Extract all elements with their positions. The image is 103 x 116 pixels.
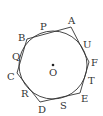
tangent-label-q: Q bbox=[12, 51, 20, 62]
geometry-figure: ABCDEFPQRSTUO bbox=[0, 0, 103, 116]
tangent-label-p: P bbox=[40, 21, 47, 32]
vertex-label-b: B bbox=[18, 32, 25, 43]
vertex-label-e: E bbox=[81, 93, 88, 104]
vertex-label-d: D bbox=[38, 104, 46, 115]
hexagon-circle-diagram: ABCDEFPQRSTUO bbox=[0, 0, 103, 116]
tangent-label-u: U bbox=[83, 39, 91, 50]
tangent-label-s: S bbox=[60, 100, 67, 111]
vertex-label-c: C bbox=[7, 71, 15, 82]
tangent-label-t: T bbox=[88, 75, 95, 86]
center-label-o: O bbox=[49, 67, 57, 78]
tangent-label-r: R bbox=[21, 88, 29, 99]
vertex-label-a: A bbox=[67, 15, 76, 26]
center-point-o bbox=[52, 64, 55, 67]
vertex-label-f: F bbox=[91, 57, 98, 68]
